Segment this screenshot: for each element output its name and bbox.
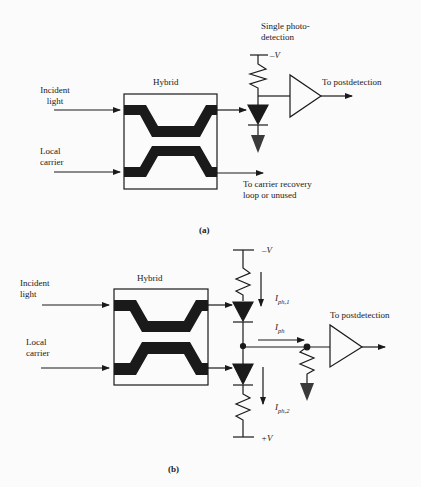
diagram-canvas [0,0,421,487]
photodiode-top-icon [233,302,253,321]
label-sub: ph [278,327,285,334]
hybrid-waveguides [124,105,217,177]
caption-b: (b) [168,464,179,475]
label-line: light [38,96,72,107]
label-line: detection [261,32,310,43]
local-carrier-label-b: Local carrier [26,337,49,359]
label-line: Single photo- [261,21,310,32]
hybrid-waveguides-b [114,300,208,375]
panel-b [41,250,385,437]
ground-icon [251,135,265,153]
photodiode-bottom-icon [233,364,253,384]
supply-bottom-label: +V [261,433,273,444]
incident-light-label: Incident light [38,85,72,107]
load-resistor-icon [300,347,314,383]
local-carrier-label: Local carrier [40,146,63,168]
detector-title: Single photo- detection [261,21,310,43]
label-line: carrier [26,348,49,359]
postdetection-label: To postdetection [322,77,382,88]
label-line: carrier [40,157,63,168]
label-sub: ph,1 [278,298,289,305]
junction-node [241,344,246,349]
resistor-top-icon [236,250,250,301]
incident-light-label-b: Incident light [20,278,50,300]
unused-port-label: To carrier recovery loop or unused [243,179,312,201]
ground-icon-b [300,383,314,401]
amplifier-icon-b [330,325,362,367]
current-2-label: Iph,2 [275,402,289,416]
supply-top-label: –V [262,245,272,256]
postdetection-label-b: To postdetection [330,310,390,321]
label-line: Incident [20,278,50,289]
hybrid-label: Hybrid [153,77,179,88]
label-line: Local [40,146,63,157]
label-line: Local [26,337,49,348]
photodiode-icon [248,105,268,124]
current-1-label: Iph,1 [275,293,289,307]
hybrid-label-b: Hybrid [137,273,163,284]
resistor-icon [250,55,266,96]
label-line: loop or unused [243,190,312,201]
label-line: Incident [38,85,72,96]
label-line: light [20,289,50,300]
panel-a [54,55,352,189]
resistor-bottom-icon [236,385,250,437]
caption-a: (a) [199,225,210,236]
current-out-label: Iph [275,322,285,336]
supply-label: –V [270,50,280,61]
amplifier-icon [290,75,321,117]
label-sub: ph,2 [278,407,289,414]
label-line: To carrier recovery [243,179,312,190]
